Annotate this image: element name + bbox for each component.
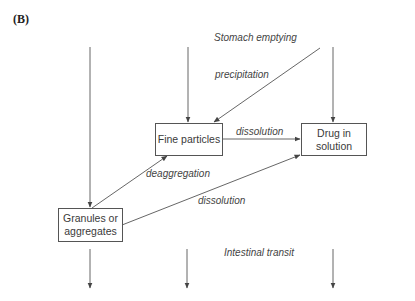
node-granules: Granules or aggregates xyxy=(58,208,123,242)
node-fine-particles: Fine particles xyxy=(155,123,223,156)
node-drug-in-solution-line2: solution xyxy=(316,140,352,153)
label-stomach-emptying: Stomach emptying xyxy=(214,32,297,43)
label-dissolution-granules: dissolution xyxy=(198,195,245,206)
node-granules-line2: aggregates xyxy=(64,225,117,238)
node-drug-in-solution-line1: Drug in xyxy=(317,127,351,140)
label-dissolution-fine: dissolution xyxy=(236,126,283,137)
node-fine-particles-label: Fine particles xyxy=(158,133,220,146)
node-granules-line1: Granules or xyxy=(63,212,118,225)
arrow-deaggregation xyxy=(92,156,167,208)
node-drug-in-solution: Drug in solution xyxy=(301,123,367,156)
label-intestinal-transit: Intestinal transit xyxy=(224,247,294,258)
label-precipitation: precipitation xyxy=(215,69,269,80)
label-deaggregation: deaggregation xyxy=(146,168,210,179)
arrow-precipitation xyxy=(214,48,320,122)
arrow-dissolution-granules xyxy=(122,155,300,225)
